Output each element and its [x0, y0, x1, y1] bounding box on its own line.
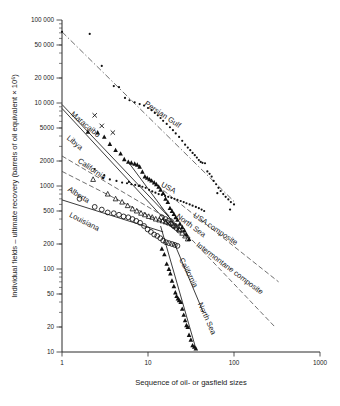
marker-dot [101, 65, 103, 67]
chart-canvas: 10205010020050010002000500010 00020 0005… [0, 0, 340, 406]
marker-dot [154, 192, 156, 194]
marker-dot [184, 144, 186, 146]
marker-dot [225, 196, 227, 198]
y-tick-label: 20 [47, 323, 55, 330]
marker-dot [170, 197, 172, 199]
marker-dot [233, 203, 235, 205]
marker-dot [216, 192, 218, 194]
y-tick-label: 50 [47, 290, 55, 297]
marker-dot [164, 195, 166, 197]
x-tick-label: 1000 [313, 359, 328, 366]
marker-dot [198, 207, 200, 209]
marker-dot [189, 149, 191, 151]
marker-dot [215, 183, 217, 185]
y-tick-label: 100 000 [31, 16, 55, 23]
marker-dot [121, 181, 123, 183]
marker-dot [176, 199, 178, 201]
marker-dot [89, 33, 91, 35]
marker-dot [229, 208, 231, 210]
y-tick-label: 10 [47, 348, 55, 355]
y-tick-label: 100 [43, 265, 54, 272]
marker-dot [195, 206, 197, 208]
marker-dot [181, 140, 183, 142]
marker-dot [145, 187, 147, 189]
marker-dot [206, 170, 208, 172]
marker-dot [158, 193, 160, 195]
marker-dot [124, 97, 126, 99]
marker-dot [139, 103, 141, 105]
marker-dot [61, 31, 63, 33]
marker-dot [200, 208, 202, 210]
marker-dot [172, 129, 174, 131]
marker-dot [134, 101, 136, 103]
y-tick-label: 1000 [40, 182, 55, 189]
marker-dot [213, 180, 215, 182]
y-tick-label: 10 000 [34, 99, 54, 106]
marker-dot [180, 200, 182, 202]
marker-dot [166, 123, 168, 125]
marker-dot [109, 178, 111, 180]
marker-dot [191, 205, 193, 207]
x-tick-label: 10 [144, 359, 152, 366]
marker-dot [217, 187, 219, 189]
marker-dot [194, 154, 196, 156]
y-tick-label: 5000 [40, 124, 55, 131]
marker-dot [220, 190, 222, 192]
chart-figure: 10205010020050010002000500010 00020 0005… [0, 0, 340, 406]
marker-dot [128, 99, 130, 101]
y-tick-label: 20 000 [34, 74, 54, 81]
y-tick-label: 200 [43, 240, 54, 247]
marker-dot [139, 185, 141, 187]
marker-dot [161, 194, 163, 196]
marker-dot [148, 189, 150, 191]
marker-dot [175, 132, 177, 134]
y-tick-label: 50 000 [34, 41, 54, 48]
marker-dot [204, 162, 206, 164]
marker-dot [141, 186, 143, 188]
marker-dot [173, 198, 175, 200]
x-tick-label: 100 [229, 359, 240, 366]
marker-dot [130, 183, 132, 185]
marker-dot [227, 198, 229, 200]
marker-dot [128, 181, 130, 183]
y-axis-title: Individual fields – ultimate recovery (b… [10, 74, 19, 298]
marker-dot [118, 86, 120, 88]
marker-dot [222, 193, 224, 195]
marker-dot [187, 147, 189, 149]
marker-dot [189, 203, 191, 205]
marker-dot [134, 184, 136, 186]
y-tick-label: 2000 [40, 157, 55, 164]
marker-dot [126, 182, 128, 184]
marker-dot [185, 202, 187, 204]
marker-dot [196, 156, 198, 158]
x-axis-title: Sequence of oil- or gasfield sizes [135, 378, 247, 387]
marker-dot [198, 159, 200, 161]
marker-dot [201, 162, 203, 164]
marker-dot [113, 85, 115, 87]
marker-dot [230, 201, 232, 203]
x-tick-label: 1 [60, 359, 64, 366]
marker-dot [191, 152, 193, 154]
marker-dot [211, 175, 213, 177]
y-tick-label: 500 [43, 207, 54, 214]
marker-dot [178, 136, 180, 138]
marker-dot [208, 173, 210, 175]
marker-dot [167, 196, 169, 198]
marker-dot [169, 126, 171, 128]
marker-dot [115, 180, 117, 182]
chart-background [0, 0, 340, 406]
marker-dot [183, 201, 185, 203]
marker-dot [203, 210, 205, 212]
marker-dot [151, 190, 153, 192]
